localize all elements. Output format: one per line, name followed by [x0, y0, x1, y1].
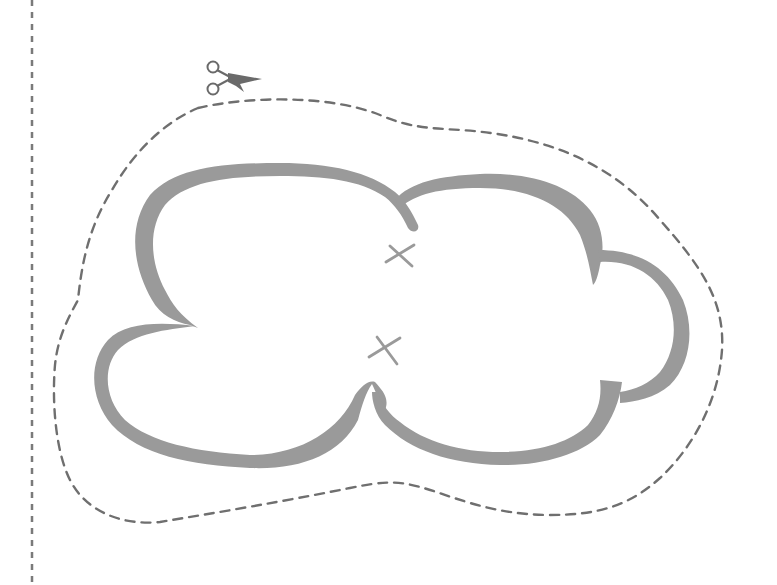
cut-line[interactable]: [54, 99, 722, 522]
scissors-icon: [208, 62, 263, 95]
x-mark-icon: [369, 337, 400, 364]
x-mark-icon: [386, 245, 414, 266]
cutout-template: Cloud cut-out template Cut along the das…: [0, 0, 777, 585]
cloud-outline: [94, 163, 689, 468]
